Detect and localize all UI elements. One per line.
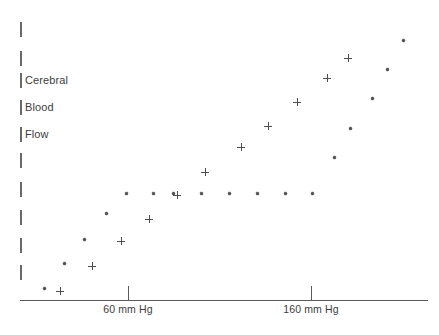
data-point-plus-3 bbox=[145, 215, 154, 224]
y-axis-tick-5 bbox=[20, 153, 22, 168]
x-axis-tick-label-0: 60 mm Hg bbox=[103, 303, 153, 315]
data-point-dot-13 bbox=[346, 124, 355, 133]
y-axis-title-word-1: Blood bbox=[25, 102, 54, 113]
data-point-dot-4 bbox=[122, 189, 131, 198]
data-point-plus-7 bbox=[264, 122, 273, 131]
data-point-plus-8 bbox=[293, 98, 302, 107]
data-point-dot-2 bbox=[80, 235, 89, 244]
data-point-dot-12 bbox=[330, 153, 339, 162]
data-point-plus-6 bbox=[237, 143, 246, 152]
chart-figure: CerebralBloodFlow 60 mm Hg160 mm Hg bbox=[0, 0, 439, 335]
data-point-plus-2 bbox=[117, 237, 126, 246]
y-axis-tick-0 bbox=[20, 22, 22, 37]
data-point-dot-9 bbox=[253, 189, 262, 198]
data-point-dot-15 bbox=[383, 65, 392, 74]
data-point-dot-14 bbox=[368, 94, 377, 103]
data-point-dot-10 bbox=[281, 189, 290, 198]
y-axis-tick-6 bbox=[20, 182, 22, 197]
y-axis-tick-4 bbox=[20, 127, 22, 142]
x-axis-line bbox=[20, 300, 428, 301]
data-point-plus-10 bbox=[344, 54, 353, 63]
y-axis-title-word-2: Flow bbox=[25, 129, 49, 140]
data-point-dot-11 bbox=[308, 189, 317, 198]
data-point-dot-3 bbox=[102, 209, 111, 218]
data-point-plus-1 bbox=[88, 262, 97, 271]
x-axis-tick-label-1: 160 mm Hg bbox=[283, 303, 339, 315]
y-axis-title-word-0: Cerebral bbox=[25, 75, 68, 86]
y-axis-tick-8 bbox=[20, 238, 22, 253]
data-point-dot-5 bbox=[149, 189, 158, 198]
data-point-dot-0 bbox=[40, 284, 49, 293]
y-axis-tick-2 bbox=[20, 73, 22, 88]
data-point-plus-5 bbox=[201, 168, 210, 177]
data-point-dot-7 bbox=[197, 189, 206, 198]
data-point-dot-16 bbox=[399, 36, 408, 45]
data-point-dot-8 bbox=[225, 189, 234, 198]
data-point-dot-1 bbox=[60, 259, 69, 268]
y-axis-tick-7 bbox=[20, 210, 22, 225]
y-axis-tick-1 bbox=[20, 51, 22, 66]
data-point-plus-9 bbox=[323, 74, 332, 83]
x-axis-tick-1 bbox=[311, 286, 312, 300]
y-axis-tick-9 bbox=[20, 265, 22, 280]
data-point-plus-0 bbox=[56, 287, 65, 296]
data-point-plus-4 bbox=[173, 191, 182, 200]
y-axis-tick-3 bbox=[20, 100, 22, 115]
x-axis-tick-0 bbox=[128, 286, 129, 300]
